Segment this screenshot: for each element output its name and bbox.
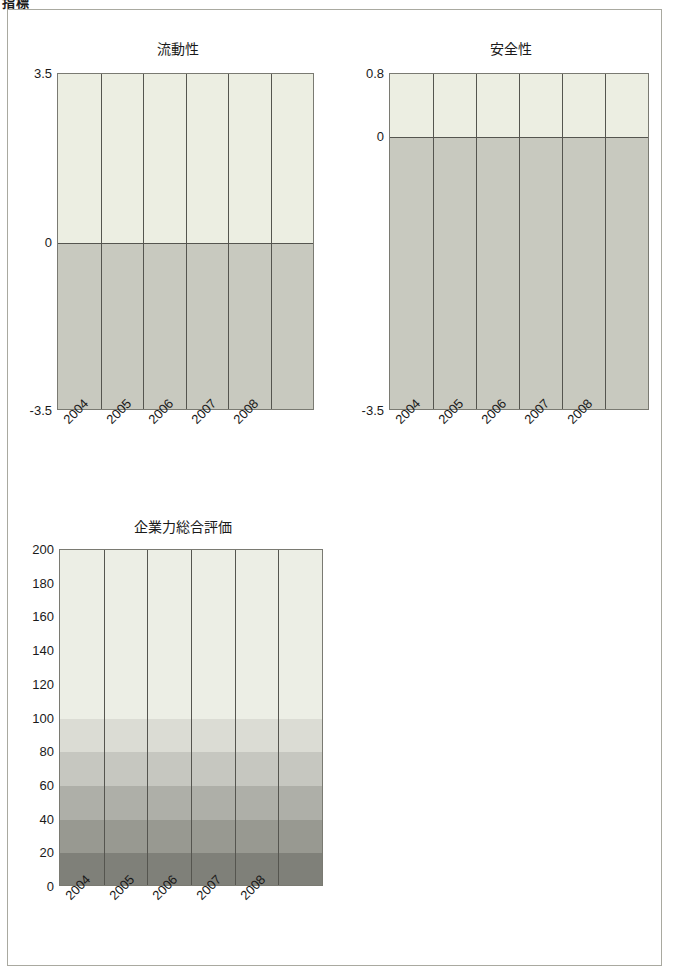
chart-title: 安全性 [381,38,641,58]
chart-overall-corporate-strength: 企業力総合評価 20018016014012010080604020020042… [8,510,338,940]
category-separator [476,74,477,409]
category-separator [278,550,279,885]
y-axis-tick-label: 0 [8,880,54,893]
category-separator [519,74,520,409]
category-separator [191,550,192,885]
chart-safety: 安全性 0.80-3.520042005200620072008 [341,32,663,452]
plot-area [59,549,323,886]
chart-title: 企業力総合評価 [48,516,318,536]
category-separator [101,74,102,409]
category-separator [186,74,187,409]
chart-liquidity: 流動性 3.50-3.520042005200620072008 [8,32,328,452]
plot-area [57,73,314,410]
plot-area [389,73,649,410]
category-separator [143,74,144,409]
y-axis-tick-label: 100 [8,712,54,725]
category-separator [235,550,236,885]
zero-baseline [390,137,648,138]
y-axis-tick-label: 80 [8,745,54,758]
y-axis-tick-label: 0 [341,130,384,143]
zero-baseline [58,243,313,244]
y-axis-tick-label: 120 [8,678,54,691]
y-axis-tick-label: -3.5 [8,404,52,417]
y-axis-tick-label: 20 [8,846,54,859]
y-axis-tick-label: 140 [8,644,54,657]
y-axis-tick-label: 3.5 [8,67,52,80]
y-axis-tick-label: 160 [8,610,54,623]
category-separator [104,550,105,885]
y-axis-tick-label: 0.8 [341,67,384,80]
category-separator [271,74,272,409]
category-separator [605,74,606,409]
y-axis-tick-label: 0 [8,236,52,249]
category-separator [433,74,434,409]
category-separator [147,550,148,885]
page-frame: 流動性 3.50-3.520042005200620072008 安全性 0.8… [7,9,662,966]
y-axis-tick-label: 60 [8,779,54,792]
y-axis-tick-label: -3.5 [341,404,384,417]
y-axis-tick-label: 40 [8,813,54,826]
chart-title: 流動性 [48,38,308,58]
category-separator [228,74,229,409]
y-axis-tick-label: 200 [8,543,54,556]
y-axis-tick-label: 180 [8,577,54,590]
category-separator [562,74,563,409]
